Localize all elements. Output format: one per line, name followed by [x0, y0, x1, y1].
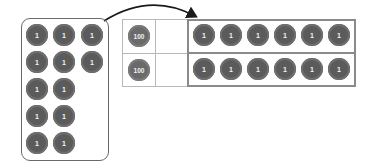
hundred-chip: 100 [128, 25, 150, 47]
one-chip: 1 [274, 24, 296, 46]
one-chip: 1 [274, 58, 296, 80]
one-chip: 1 [193, 24, 215, 46]
one-chip: 1 [220, 58, 242, 80]
one-chip: 1 [53, 51, 75, 73]
one-chip: 1 [26, 78, 48, 100]
one-chip: 1 [26, 24, 48, 46]
one-chip: 1 [301, 58, 323, 80]
one-chip: 1 [53, 105, 75, 127]
one-chip: 1 [301, 24, 323, 46]
one-chip: 1 [247, 58, 269, 80]
hundred-chip: 100 [128, 59, 150, 81]
one-chip: 1 [26, 132, 48, 154]
one-chip: 1 [26, 51, 48, 73]
one-chip: 1 [53, 132, 75, 154]
ones-row-divider [187, 52, 356, 54]
one-chip: 1 [193, 58, 215, 80]
one-chip: 1 [247, 24, 269, 46]
one-chip: 1 [81, 24, 103, 46]
tens-cell-row2 [155, 53, 188, 87]
one-chip: 1 [328, 24, 350, 46]
tens-cell-row1 [155, 19, 188, 54]
one-chip: 1 [53, 24, 75, 46]
one-chip: 1 [328, 58, 350, 80]
one-chip: 1 [81, 51, 103, 73]
one-chip: 1 [53, 78, 75, 100]
one-chip: 1 [26, 105, 48, 127]
one-chip: 1 [220, 24, 242, 46]
